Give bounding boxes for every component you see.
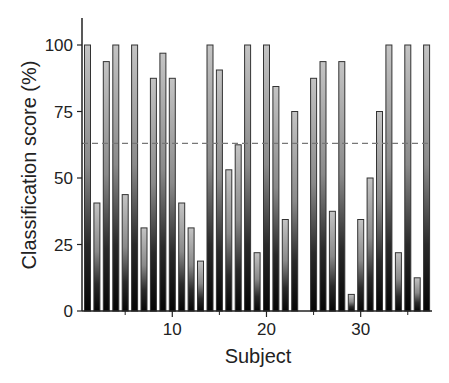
- bar-subject-22: [282, 220, 288, 312]
- bar-subject-23: [292, 112, 298, 312]
- bar-subject-2: [94, 203, 100, 311]
- bar-subject-3: [103, 62, 109, 311]
- bar-subject-4: [113, 45, 119, 311]
- bar-subject-28: [339, 62, 345, 311]
- bar-chart: 0255075100102030 Classification score (%…: [0, 0, 449, 383]
- bar-subject-19: [254, 253, 260, 311]
- bar-subject-30: [358, 220, 364, 312]
- y-tick-label: 0: [64, 302, 73, 321]
- bars-group: [85, 45, 430, 311]
- bar-subject-5: [122, 195, 128, 311]
- bar-subject-37: [424, 45, 430, 311]
- bar-subject-33: [386, 45, 392, 311]
- y-tick-label: 75: [54, 103, 73, 122]
- bar-subject-12: [188, 228, 194, 311]
- bar-subject-21: [273, 87, 279, 312]
- bar-subject-36: [414, 278, 420, 311]
- x-tick-label: 10: [163, 320, 182, 339]
- bar-subject-9: [160, 53, 166, 311]
- bar-subject-6: [132, 45, 138, 311]
- bar-subject-26: [320, 62, 326, 311]
- bar-subject-8: [150, 78, 156, 311]
- bar-subject-29: [348, 294, 354, 311]
- bar-subject-27: [329, 211, 335, 311]
- bar-subject-14: [207, 45, 213, 311]
- bar-subject-20: [264, 45, 270, 311]
- bar-subject-7: [141, 228, 147, 311]
- y-tick-label: 50: [54, 169, 73, 188]
- bar-subject-25: [311, 78, 317, 311]
- bar-subject-10: [169, 78, 175, 311]
- y-tick-label: 100: [45, 36, 73, 55]
- bar-subject-1: [85, 45, 91, 311]
- bar-subject-35: [405, 45, 411, 311]
- y-axis-title: Classification score (%): [18, 61, 40, 270]
- bar-subject-31: [367, 178, 373, 311]
- y-tick-label: 25: [54, 236, 73, 255]
- bar-subject-18: [245, 45, 251, 311]
- x-tick-label: 20: [257, 320, 276, 339]
- x-axis-title: Subject: [225, 345, 292, 367]
- bar-subject-32: [377, 112, 383, 312]
- bar-subject-15: [216, 70, 222, 311]
- x-tick-label: 30: [351, 320, 370, 339]
- bar-subject-34: [395, 253, 401, 311]
- bar-subject-17: [235, 145, 241, 311]
- bar-subject-16: [226, 170, 232, 311]
- bar-subject-11: [179, 203, 185, 311]
- bar-subject-13: [198, 261, 204, 311]
